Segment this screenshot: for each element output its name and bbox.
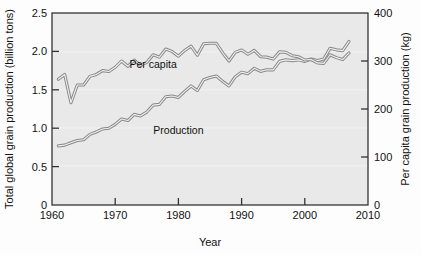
x-axis-title: Year bbox=[199, 236, 222, 248]
y-tick-label-left: 2.0 bbox=[32, 45, 47, 57]
grain-production-line-chart: 196019701980199020002010 00.51.01.52.02.… bbox=[0, 0, 421, 255]
y-tick-label-right: 0 bbox=[374, 199, 380, 211]
y-tick-label-left: 0 bbox=[41, 199, 47, 211]
chart-figure: 196019701980199020002010 00.51.01.52.02.… bbox=[0, 0, 421, 255]
y-axis-left-title: Total global grain production (billion t… bbox=[3, 9, 15, 209]
y-tick-label-left: 2.5 bbox=[32, 7, 47, 19]
x-tick-label: 1970 bbox=[103, 209, 127, 221]
y-tick-label-left: 0.5 bbox=[32, 161, 47, 173]
y-axis-right-title: Per capita grain production (kg) bbox=[399, 32, 411, 185]
y-tick-label-left: 1.5 bbox=[32, 84, 47, 96]
x-tick-label: 1980 bbox=[166, 209, 190, 221]
y-tick-label-right: 300 bbox=[374, 55, 392, 67]
y-tick-label-left: 1.0 bbox=[32, 122, 47, 134]
x-tick-label: 1990 bbox=[229, 209, 253, 221]
y-tick-label-right: 400 bbox=[374, 7, 392, 19]
annotation-per-capita: Per capita bbox=[129, 58, 176, 70]
x-tick-label: 2000 bbox=[293, 209, 317, 221]
annotation-production: Production bbox=[153, 124, 203, 136]
y-tick-label-right: 200 bbox=[374, 103, 392, 115]
y-tick-label-right: 100 bbox=[374, 151, 392, 163]
